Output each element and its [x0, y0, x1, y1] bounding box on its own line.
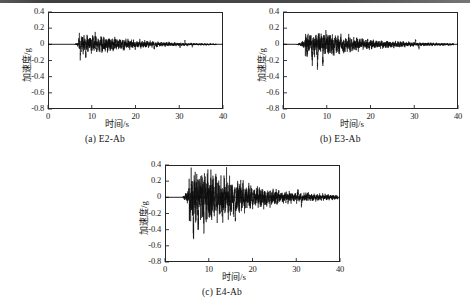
- y-tick-label: 0.4: [16, 7, 44, 16]
- x-tick-label: 30: [402, 112, 426, 121]
- y-tick-label: 0.4: [251, 7, 279, 16]
- caption-b: (b) E3-Ab: [320, 134, 361, 144]
- panel-a: 加速度/g 时间/s (a) E2-Ab 0.40.20-0.2-0.4-0.6…: [0, 0, 235, 151]
- caption-a: (a) E2-Ab: [85, 134, 125, 144]
- y-tick-label: 0.2: [133, 176, 161, 185]
- x-tick-label: 20: [359, 112, 383, 121]
- y-tick-label: -0.4: [16, 72, 44, 81]
- y-tick-label: 0.4: [133, 160, 161, 169]
- x-tick-label: 10: [80, 112, 104, 121]
- x-tick-label: 10: [315, 112, 339, 121]
- y-tick-label: -0.2: [251, 56, 279, 65]
- panel-b: 加速度/g 时间/s (b) E3-Ab 0.40.20-0.2-0.4-0.6…: [235, 0, 470, 151]
- x-tick-label: 20: [241, 265, 265, 274]
- y-tick-label: 0: [16, 39, 44, 48]
- y-tick-label: -0.2: [16, 56, 44, 65]
- y-tick-label: -0.6: [133, 241, 161, 250]
- y-tick-label: 0.2: [16, 23, 44, 32]
- x-tick-label: 40: [446, 112, 470, 121]
- x-tick-label: 0: [36, 112, 60, 121]
- y-tick-label: 0: [133, 192, 161, 201]
- y-tick-label: -0.2: [133, 209, 161, 218]
- x-tick-label: 40: [211, 112, 235, 121]
- x-tick-label: 0: [271, 112, 295, 121]
- y-tick-label: 0: [251, 39, 279, 48]
- x-tick-label: 0: [153, 265, 177, 274]
- y-tick-label: -0.6: [251, 88, 279, 97]
- y-tick-label: -0.6: [16, 88, 44, 97]
- panel-c: 加速度/g 时间/s (c) E4-Ab 0.40.20-0.2-0.4-0.6…: [117, 152, 352, 302]
- y-tick-label: -0.4: [133, 225, 161, 234]
- x-tick-label: 10: [197, 265, 221, 274]
- x-tick-label: 30: [284, 265, 308, 274]
- y-tick-label: 0.2: [251, 23, 279, 32]
- x-tick-label: 40: [328, 265, 352, 274]
- caption-c: (c) E4-Ab: [202, 287, 242, 297]
- y-tick-label: -0.4: [251, 72, 279, 81]
- x-tick-label: 30: [167, 112, 191, 121]
- x-tick-label: 20: [124, 112, 148, 121]
